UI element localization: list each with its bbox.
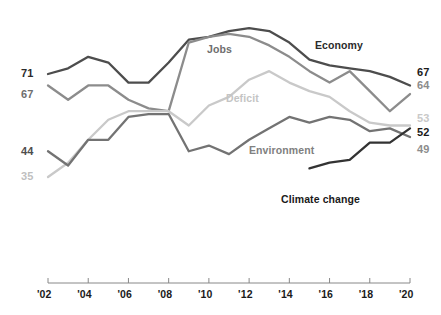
line-chart: 71674435 6764535249 EconomyJobsDeficitEn… — [0, 0, 441, 315]
x-axis-tick-label-12: '12 — [238, 288, 252, 300]
right-axis-label-64-1: 64 — [417, 79, 430, 91]
x-axis-tick-label-16: '16 — [319, 288, 333, 300]
series-label-climate-change: Climate change — [281, 193, 360, 205]
x-axis-tick-label-08: '08 — [158, 288, 172, 300]
x-axis-tick-label-20: '20 — [399, 288, 413, 300]
right-axis-label-49-4: 49 — [417, 143, 430, 155]
right-axis-label-53-2: 53 — [417, 112, 430, 124]
right-axis-label-52-3: 52 — [417, 126, 430, 138]
left-axis-label-71: 71 — [21, 67, 34, 79]
series-line-environment — [48, 114, 410, 166]
x-axis-tick-label-10: '10 — [198, 288, 212, 300]
x-axis-tick-label-18: '18 — [359, 288, 373, 300]
series-label-economy: Economy — [315, 39, 363, 51]
right-axis-label-67-0: 67 — [417, 66, 430, 78]
x-axis-tick-label-06: '06 — [117, 288, 131, 300]
series-line-climate-change — [309, 128, 410, 168]
x-axis-tick-label-14: '14 — [278, 288, 292, 300]
x-axis-tick-label-02: '02 — [37, 288, 51, 300]
x-axis — [48, 278, 410, 283]
x-axis-tick-label-04: '04 — [77, 288, 91, 300]
series-label-deficit: Deficit — [226, 92, 259, 104]
series-label-environment: Environment — [249, 144, 314, 156]
left-axis-label-67: 67 — [21, 88, 34, 100]
series-label-jobs: Jobs — [207, 43, 232, 55]
left-axis-label-35: 35 — [21, 170, 34, 182]
left-axis-label-44: 44 — [21, 145, 34, 157]
